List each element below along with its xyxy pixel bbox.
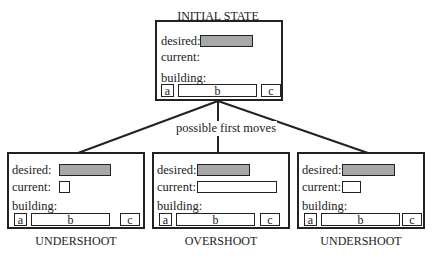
block-b: b [178,84,257,97]
building-label: building: [302,199,347,213]
desired-bar [59,164,111,176]
current-label: current: [12,180,51,194]
current-label: current: [302,180,341,194]
current-bar [197,181,277,193]
desired-bar [342,164,395,176]
current-label: current: [161,50,200,64]
desired-label: desired: [12,163,52,177]
caption-right: UNDERSHOOT [301,234,421,249]
block-a: a [159,213,172,226]
current-bar [59,181,70,193]
desired-label: desired: [161,34,201,48]
building-label: building: [161,71,206,85]
edge-label: possible first moves [175,121,277,136]
block-c: c [402,213,422,226]
block-c: c [260,213,280,226]
block-c: c [120,213,140,226]
child-state-box-right: desired: current: building: a b c [297,152,425,229]
block-b: b [321,213,400,226]
building-label: building: [157,199,202,213]
block-c: c [261,84,281,97]
desired-label: desired: [302,163,342,177]
child-state-box-middle: desired: current: building: a b c [152,152,290,229]
block-b: b [176,213,255,226]
building-label: building: [12,199,57,213]
block-a: a [14,213,27,226]
block-a: a [304,213,317,226]
current-bar [342,181,361,193]
desired-bar [200,35,253,47]
desired-bar [197,164,250,176]
block-b: b [31,213,110,226]
caption-middle: OVERSHOOT [161,234,281,249]
caption-left: UNDERSHOOT [16,234,136,249]
block-a: a [161,84,174,97]
desired-label: desired: [157,163,197,177]
current-label: current: [157,180,196,194]
initial-state-box: desired: current: building: a b c [155,20,283,101]
child-state-box-left: desired: current: building: a b c [7,152,145,229]
